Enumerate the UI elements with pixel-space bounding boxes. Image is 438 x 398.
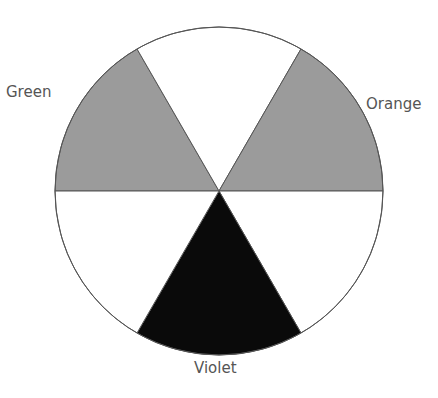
label-violet: Violet xyxy=(194,359,237,377)
wheel-wedges xyxy=(55,27,383,355)
color-wheel-diagram: Green Orange Violet xyxy=(0,0,438,398)
label-green: Green xyxy=(6,83,51,101)
label-orange: Orange xyxy=(366,95,421,113)
